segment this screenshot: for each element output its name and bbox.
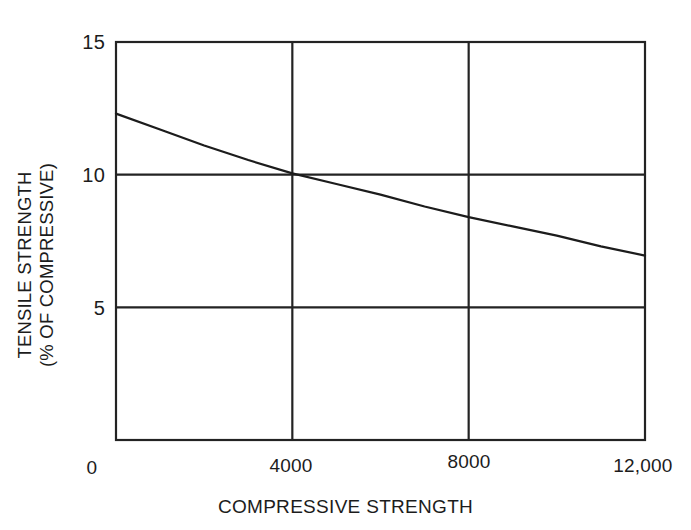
plot-frame — [116, 42, 645, 440]
gridlines — [116, 42, 645, 440]
chart-figure: 15 10 5 0 4000 8000 12,000 COMPRESSIVE S… — [0, 0, 691, 530]
plot-area — [0, 0, 691, 530]
data-series-line — [116, 114, 645, 256]
